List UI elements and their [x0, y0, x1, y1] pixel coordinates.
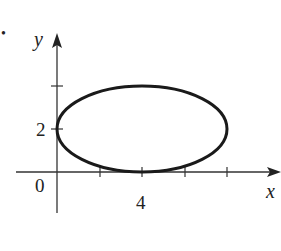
x-tick-label-4: 4: [136, 192, 146, 213]
y-axis-label: y: [32, 28, 43, 51]
x-axis-label: x: [265, 180, 275, 202]
ellipse-diagram: • y x 0 2 4: [0, 0, 281, 251]
y-tick-label-2: 2: [36, 119, 46, 140]
bullet-marker: •: [1, 26, 6, 41]
origin-label: 0: [35, 175, 45, 196]
ellipse-curve: [57, 86, 227, 172]
